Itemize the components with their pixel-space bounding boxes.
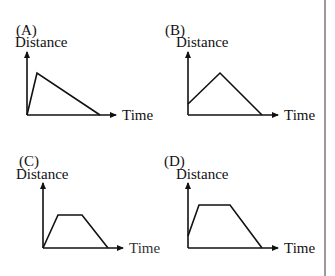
- distance-time-graphs-figure: (A) Distance Time (B) Distance Time (C) …: [0, 0, 335, 276]
- graph-d-y-label: Distance: [176, 167, 228, 182]
- graph-c: [43, 183, 123, 248]
- graph-d-curve: [188, 205, 262, 248]
- graph-b-curve: [188, 73, 262, 115]
- graph-c-y-label: Distance: [16, 167, 68, 182]
- graph-a: [27, 52, 116, 115]
- graph-d: [188, 183, 278, 248]
- graph-a-curve: [27, 73, 100, 115]
- frame-right-border: [324, 0, 326, 276]
- graph-d-x-label: Time: [284, 241, 315, 256]
- graph-b-y-label: Distance: [176, 35, 228, 50]
- graph-c-x-label: Time: [129, 241, 160, 256]
- graph-a-y-label: Distance: [15, 35, 67, 50]
- graph-b: [188, 52, 278, 115]
- graph-a-x-label: Time: [122, 108, 153, 123]
- graph-c-curve: [43, 215, 108, 248]
- graph-b-x-label: Time: [284, 108, 315, 123]
